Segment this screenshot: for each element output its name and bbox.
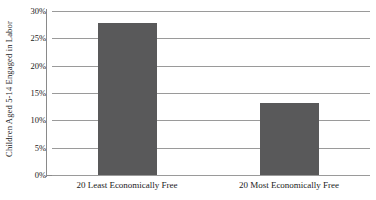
- y-tick-label: 5%: [18, 143, 46, 152]
- plot-area: [46, 11, 370, 175]
- y-tick-label: 10%: [18, 116, 46, 125]
- bar: [260, 103, 319, 175]
- y-tick-label: 15%: [18, 89, 46, 98]
- gridline: [52, 175, 370, 176]
- y-tick-label: 25%: [18, 34, 46, 43]
- y-tick-label: 20%: [18, 61, 46, 70]
- x-category-label: 20 Least Economically Free: [46, 179, 208, 191]
- y-tick-label: 0%: [18, 171, 46, 180]
- x-axis-category-labels: 20 Least Economically Free20 Most Econom…: [46, 179, 370, 197]
- gridline: [52, 11, 370, 12]
- x-category-label: 20 Most Economically Free: [208, 179, 370, 191]
- y-axis-tick-labels: 0%5%10%15%20%25%30%: [18, 0, 46, 180]
- y-tick-label: 30%: [18, 7, 46, 16]
- y-axis-title-text: Children Aged 5-14 Engaged in Labor: [4, 21, 14, 157]
- bar-chart: Children Aged 5-14 Engaged in Labor 0%5%…: [0, 0, 376, 200]
- bar: [98, 23, 157, 175]
- y-axis-title: Children Aged 5-14 Engaged in Labor: [0, 0, 18, 178]
